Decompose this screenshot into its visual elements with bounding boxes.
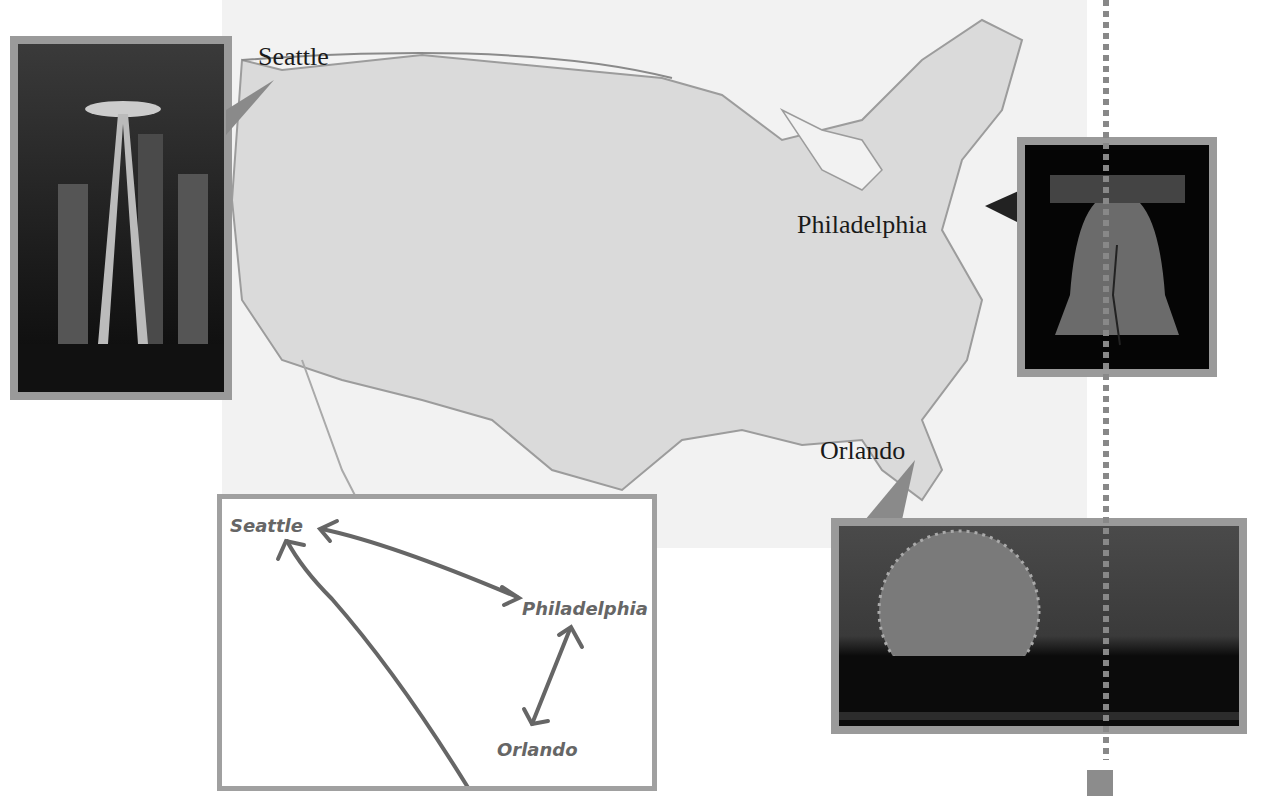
seattle-photo: [10, 36, 232, 400]
orlando-pointer: [860, 460, 930, 520]
diagram-arrows: [222, 499, 652, 786]
seattle-pointer: [226, 80, 276, 150]
marker-square: [1087, 770, 1113, 796]
dotted-divider: [1103, 0, 1109, 760]
label-philadelphia: Philadelphia: [797, 210, 927, 240]
label-seattle: Seattle: [258, 42, 329, 72]
orlando-photo: [831, 518, 1247, 734]
route-diagram: Seattle Philadelphia Orlando: [217, 494, 657, 791]
philadelphia-photo: [1017, 137, 1217, 377]
us-map: [222, 0, 1087, 548]
